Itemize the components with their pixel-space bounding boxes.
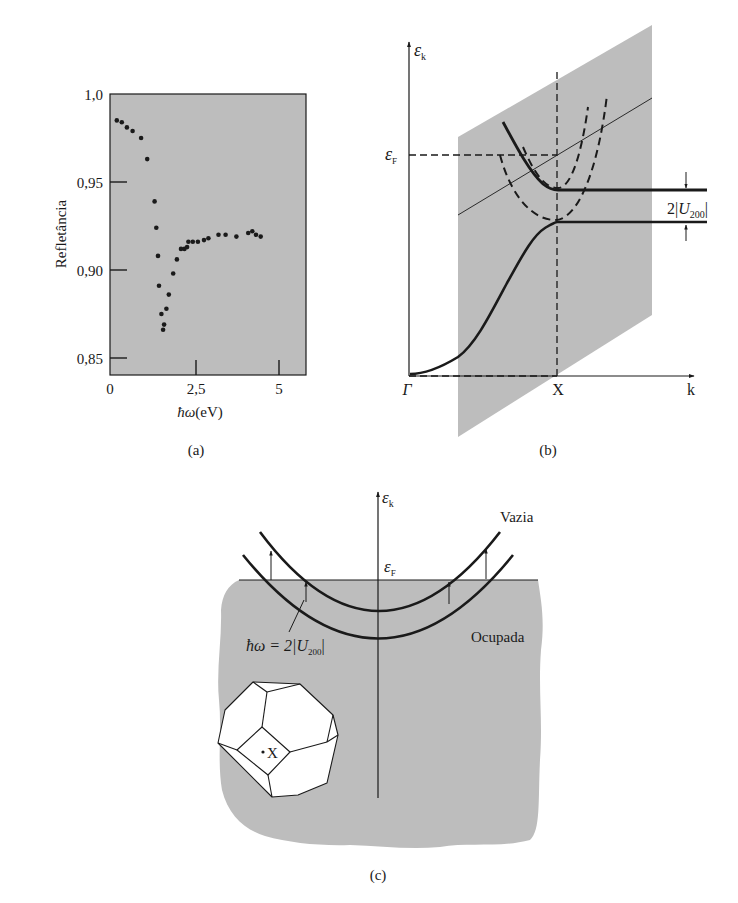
- k-axis-label: k: [687, 381, 695, 398]
- data-point: [154, 226, 159, 231]
- data-point: [120, 120, 125, 125]
- data-point: [162, 322, 167, 327]
- data-point: [159, 312, 164, 317]
- panel-a-xlabel: ħω(eV): [177, 404, 223, 421]
- bz-x-point-label: X: [267, 745, 278, 761]
- panel-a-ytick-labels: 1,0 0,95 0,90 0,85: [77, 87, 103, 367]
- xtick-label: 2,5: [187, 381, 206, 397]
- x-point-label: X: [552, 381, 564, 398]
- occupied-band-label: Ocupada: [471, 629, 525, 645]
- data-point: [171, 271, 176, 276]
- ytick-label: 0,85: [77, 351, 103, 367]
- xtick-label: 5: [275, 381, 283, 397]
- data-point: [145, 157, 150, 162]
- data-point: [175, 257, 180, 262]
- gap-label-subscript: 200: [690, 209, 705, 220]
- data-point: [115, 118, 120, 123]
- panel-a-plot-area: [110, 94, 306, 375]
- data-point: [130, 129, 135, 134]
- data-point: [156, 254, 161, 259]
- ytick-label: 1,0: [84, 87, 103, 103]
- data-point: [216, 233, 221, 238]
- data-point: [167, 292, 172, 297]
- fermi-level-label: εF: [385, 144, 397, 166]
- data-point: [152, 199, 157, 204]
- ytick-label: 0,95: [77, 175, 103, 191]
- empty-band-label: Vazia: [500, 509, 534, 525]
- epsilon-subscript: k: [421, 51, 426, 62]
- gap-label-prefix: 2|: [667, 200, 678, 218]
- epsilon-subscript: k: [389, 498, 394, 509]
- hbar-omega-symbol: ħω: [177, 404, 195, 420]
- data-point: [254, 233, 259, 238]
- data-point: [161, 328, 166, 333]
- figure-canvas: 1,0 0,95 0,90 0,85 0 2,5 5 Refletância ħ…: [0, 0, 738, 903]
- fermi-level-label-c: εF: [384, 557, 396, 578]
- data-point: [206, 236, 211, 241]
- data-point: [186, 240, 191, 245]
- gamma-point-label: Γ: [401, 381, 412, 398]
- panel-b-caption: (b): [539, 442, 557, 459]
- data-point: [223, 233, 228, 238]
- panel-b: 2|U200| εk εF Γ X k (b): [385, 25, 708, 459]
- energy-axis-label-c: εk: [382, 488, 394, 509]
- panel-a-xtick-labels: 0 2,5 5: [106, 381, 283, 397]
- transition-label-suffix: |: [322, 637, 325, 655]
- panel-a-caption: (a): [188, 442, 205, 459]
- x-point-dot: [261, 750, 264, 753]
- data-point: [246, 231, 251, 236]
- data-point: [185, 245, 190, 250]
- transition-label-prefix: ħω = 2|: [246, 637, 297, 655]
- data-point: [202, 238, 207, 243]
- data-point: [139, 136, 144, 141]
- transition-label-subscript: 200: [308, 647, 322, 657]
- data-point: [196, 240, 201, 245]
- data-point: [191, 240, 196, 245]
- panel-a: 1,0 0,95 0,90 0,85 0 2,5 5 Refletância ħ…: [53, 87, 306, 459]
- data-point: [234, 234, 239, 239]
- xlabel-unit: (eV): [195, 404, 222, 421]
- panel-c: εk εF Vazia Ocupada ħω = 2|U200| X (c): [218, 488, 543, 884]
- data-point: [250, 229, 255, 234]
- data-point: [125, 125, 130, 130]
- xtick-label: 0: [106, 381, 114, 397]
- fermi-subscript: F: [392, 156, 397, 166]
- ytick-label: 0,90: [77, 263, 103, 279]
- panel-c-caption: (c): [370, 867, 387, 884]
- data-point: [258, 234, 263, 239]
- panel-a-ylabel: Refletância: [53, 200, 69, 269]
- gap-label-suffix: |: [705, 200, 708, 218]
- energy-axis-label: εk: [414, 40, 426, 62]
- data-point: [164, 306, 169, 311]
- data-point: [157, 284, 162, 289]
- panel-b-zone-plane: [458, 25, 652, 437]
- fermi-subscript: F: [391, 568, 396, 578]
- gap-label: 2|U200|: [667, 200, 708, 220]
